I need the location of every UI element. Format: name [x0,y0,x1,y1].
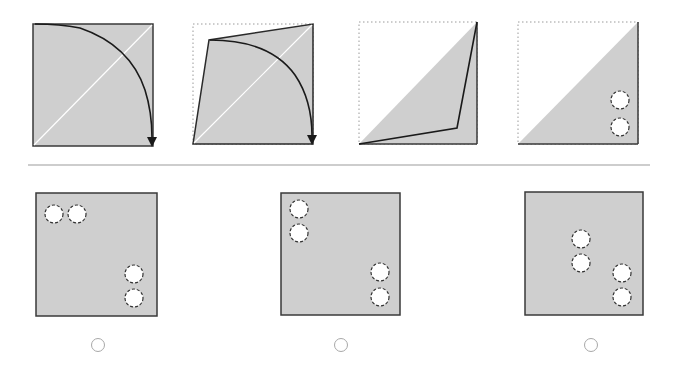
option-b-radio[interactable] [334,338,348,352]
hole [371,288,389,306]
hole [613,288,631,306]
option-b[interactable] [281,193,400,315]
punched-hole [611,118,629,136]
step-3-panel [359,22,477,144]
hole [613,264,631,282]
hole [290,224,308,242]
step-1-panel [33,24,157,147]
punched-hole [611,91,629,109]
step-2-panel [193,24,317,145]
option-a-radio[interactable] [91,338,105,352]
hole [572,230,590,248]
hole [68,205,86,223]
hole [45,205,63,223]
hole [125,265,143,283]
hole [572,254,590,272]
hole [290,200,308,218]
option-c[interactable] [525,192,643,315]
folded-triangle [359,22,477,144]
option-a[interactable] [36,193,157,316]
puzzle-canvas [0,0,678,376]
step-4-panel [518,22,638,144]
hole [125,289,143,307]
option-c-radio[interactable] [584,338,598,352]
hole [371,263,389,281]
